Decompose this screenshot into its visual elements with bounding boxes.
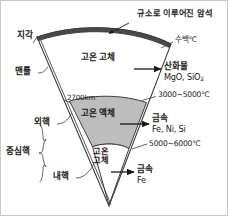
composition-title-outer-core: 금속 — [152, 114, 168, 124]
interior-label-inner-core-state: 고온 고체 — [93, 147, 109, 165]
earth-interior-structure-figure: 규소로 이루어진 암석 지각 맨틀 외핵 중심핵 내핵 고온 고체 2700km… — [0, 0, 228, 216]
crust-leader-line — [33, 37, 38, 44]
central-core-brace-top — [39, 125, 46, 153]
composition-formula-inner-core: Fe — [137, 176, 146, 185]
layer-label-mantle: 맨틀 — [15, 67, 31, 77]
temperature-label-mantle-core-boundary: 3000~5000℃ — [158, 91, 210, 100]
composition-formula-mantle: MgO, SiO2 — [164, 73, 204, 83]
interior-label-mantle-state: 고온 고체 — [81, 53, 115, 63]
composition-title-inner-core: 금속 — [137, 165, 153, 175]
central-core-brace-bottom — [39, 153, 46, 182]
callout-rock-label: 규소로 이루어진 암석 — [137, 9, 213, 18]
composition-formula-outer-core: Fe, Ni, Si — [152, 125, 186, 134]
layer-label-outer-core: 외핵 — [34, 118, 50, 128]
inner-core-label-leader — [76, 164, 94, 178]
layer-label-inner-core: 내핵 — [53, 172, 69, 182]
composition-formula-mantle-text: MgO, SiO — [164, 72, 200, 82]
outer-inner-core-temp-leader — [132, 144, 147, 149]
inner-core-state-line-2: 고체 — [93, 156, 109, 165]
depth-marker-2700km: 2700km — [67, 94, 95, 102]
layer-label-central-core: 중심핵 — [6, 147, 29, 157]
mantle-label-leader — [38, 67, 48, 73]
layer-label-crust: 지각 — [17, 31, 33, 41]
temperature-label-crust: 수백℃ — [175, 36, 197, 45]
composition-formula-mantle-subscript: 2 — [200, 76, 204, 82]
composition-title-mantle: 산화물 — [164, 62, 187, 72]
temperature-label-outer-inner-core-boundary: 5000~6000℃ — [149, 140, 201, 149]
interior-label-outer-core-state: 고온 액체 — [81, 109, 115, 119]
